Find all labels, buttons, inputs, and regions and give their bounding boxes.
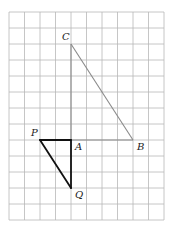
point-label-c: C [62,31,70,42]
grid-diagram: CABPQ [0,0,178,235]
point-labels: CABPQ [30,31,144,200]
point-label-a: A [74,141,82,152]
grid [9,12,164,220]
point-label-p: P [30,127,38,138]
point-label-b: B [136,141,144,152]
point-label-q: Q [75,189,83,200]
